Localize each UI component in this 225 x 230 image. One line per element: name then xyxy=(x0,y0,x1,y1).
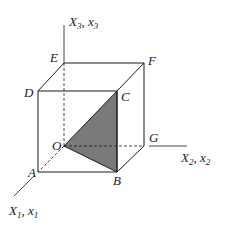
vertex-label-f: F xyxy=(147,53,157,68)
edge-fc xyxy=(117,63,144,91)
axis-label-x3: X3, x3 xyxy=(68,14,99,31)
axis-label-x1: X1, x1 xyxy=(8,203,38,220)
edge-de xyxy=(38,63,64,91)
axis-label-x2: X2, x2 xyxy=(180,150,211,167)
vertex-label-d: D xyxy=(23,85,34,100)
vertex-label-o: O xyxy=(52,138,62,153)
cube-diagram: E F D C O G A B X3, x3 X2, x2 X1, x1 xyxy=(0,0,225,230)
vertex-label-g: G xyxy=(149,130,159,145)
vertex-label-b: B xyxy=(113,173,121,188)
vertex-label-c: C xyxy=(121,89,130,104)
shaded-triangle-obc xyxy=(64,91,117,172)
vertex-label-e: E xyxy=(49,50,58,65)
edge-gb xyxy=(117,146,144,172)
vertex-label-a: A xyxy=(27,165,36,180)
